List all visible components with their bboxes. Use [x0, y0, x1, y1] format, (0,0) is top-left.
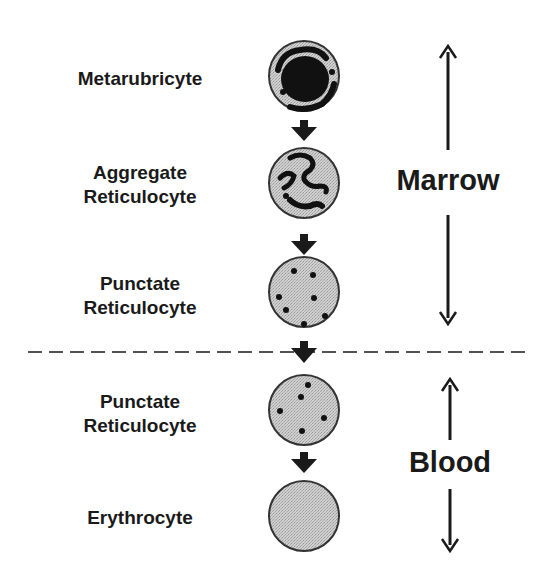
cell-punctate-reticulocyte-marrow: [269, 257, 339, 327]
cell-metarubricyte: [269, 41, 339, 111]
label-line: Reticulocyte: [40, 185, 240, 209]
stage-label-aggregate-reticulocyte: Aggregate Reticulocyte: [40, 161, 240, 209]
arrow-down-icon: [291, 452, 317, 473]
marrow-up-arrow-icon: [440, 46, 456, 150]
cell-erythrocyte: [269, 481, 339, 551]
zone-label-blood: Blood: [380, 446, 520, 479]
label-line: Metarubricyte: [40, 67, 240, 91]
cell-aggregate-reticulocyte: [269, 148, 339, 218]
stage-label-punctate-reticulocyte-marrow: Punctate Reticulocyte: [40, 272, 240, 320]
label-line: Erythrocyte: [40, 506, 240, 530]
zone-label-marrow: Marrow: [378, 164, 518, 197]
cell-punctate-reticulocyte-blood: [269, 375, 339, 445]
label-line: Reticulocyte: [40, 296, 240, 320]
arrow-down-icon: [291, 234, 317, 255]
marrow-down-arrow-icon: [440, 215, 456, 324]
label-line: Aggregate: [40, 161, 240, 185]
blood-up-arrow-icon: [442, 379, 458, 440]
stage-label-punctate-reticulocyte-blood: Punctate Reticulocyte: [40, 390, 240, 438]
stage-label-metarubricyte: Metarubricyte: [40, 67, 240, 91]
blood-down-arrow-icon: [442, 489, 458, 551]
arrow-down-icon: [291, 120, 317, 141]
label-line: Punctate: [40, 390, 240, 414]
arrow-down-icon: [291, 341, 317, 363]
label-line: Reticulocyte: [40, 414, 240, 438]
stage-label-erythrocyte: Erythrocyte: [40, 506, 240, 530]
label-line: Punctate: [40, 272, 240, 296]
